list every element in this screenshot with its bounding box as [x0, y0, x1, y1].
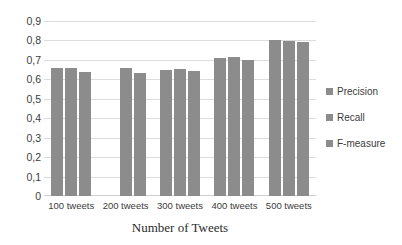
bar-recall	[120, 68, 132, 196]
bar-group	[44, 21, 98, 196]
legend-label: Precision	[337, 86, 378, 97]
bar-precision	[269, 40, 281, 196]
legend-label: F-measure	[337, 138, 385, 149]
y-tick-label: 0,3	[0, 132, 41, 143]
bar-precision	[51, 68, 63, 196]
bar-f-measure	[297, 42, 309, 196]
bar-recall	[174, 69, 186, 196]
legend-item-precision: Precision	[326, 78, 402, 104]
plot-area	[44, 21, 316, 196]
x-axis-title: Number of Tweets	[44, 220, 316, 236]
chart-legend: Precision Recall F-measure	[326, 78, 402, 156]
x-tick-label: 200 tweets	[98, 198, 152, 214]
legend-label: Recall	[337, 112, 365, 123]
y-tick-label: 0	[0, 191, 41, 202]
legend-swatch-icon	[326, 114, 333, 121]
bar-chart: 0,9 0,8 0,7 0,6 0,5 0,4 0,3 0,2 0,1 0	[0, 0, 402, 245]
legend-item-f-measure: F-measure	[326, 130, 402, 156]
x-axis-labels: 100 tweets 200 tweets 300 tweets 400 twe…	[44, 198, 316, 214]
bar-f-measure	[242, 60, 254, 196]
bar-recall	[65, 68, 77, 196]
y-tick-label: 0,1	[0, 171, 41, 182]
bar-precision	[214, 58, 226, 196]
bar-f-measure	[134, 73, 146, 196]
x-tick-label: 400 tweets	[207, 198, 261, 214]
bar-group	[262, 21, 316, 196]
y-tick-label: 0,9	[0, 16, 41, 27]
bar-f-measure	[79, 72, 91, 196]
bar-groups	[44, 21, 316, 196]
x-tick-label: 500 tweets	[262, 198, 316, 214]
bar-recall	[283, 41, 295, 196]
y-tick-label: 0,6	[0, 74, 41, 85]
y-axis: 0,9 0,8 0,7 0,6 0,5 0,4 0,3 0,2 0,1 0	[0, 0, 41, 245]
bar-recall	[228, 57, 240, 196]
y-tick-label: 0,5	[0, 94, 41, 105]
legend-item-recall: Recall	[326, 104, 402, 130]
bar-group	[207, 21, 261, 196]
bar-group	[153, 21, 207, 196]
bar-precision	[160, 70, 172, 196]
x-tick-label: 100 tweets	[44, 198, 98, 214]
y-tick-label: 0,2	[0, 152, 41, 163]
bar-f-measure	[188, 71, 200, 196]
y-tick-label: 0,4	[0, 113, 41, 124]
y-tick-label: 0,8	[0, 35, 41, 46]
legend-swatch-icon	[326, 140, 333, 147]
bar-group	[98, 21, 152, 196]
x-tick-label: 300 tweets	[153, 198, 207, 214]
legend-swatch-icon	[326, 88, 333, 95]
y-tick-label: 0,7	[0, 55, 41, 66]
